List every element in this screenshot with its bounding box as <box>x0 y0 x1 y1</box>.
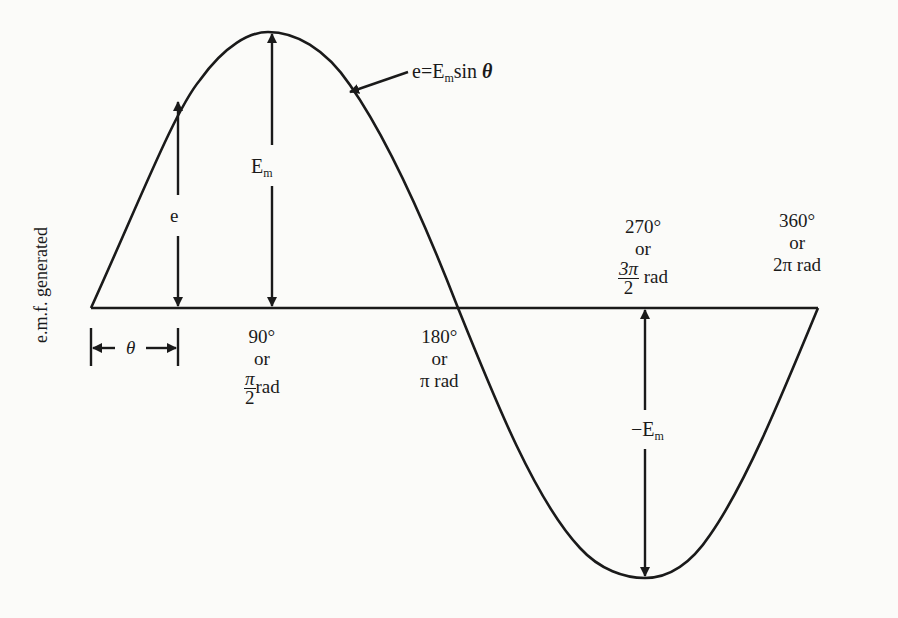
neg-em-label-main: −E <box>631 418 655 440</box>
theta-label: θ <box>126 337 135 359</box>
waveform-diagram <box>0 0 898 618</box>
curve-label-pointer <box>350 72 408 92</box>
tick-270-den: 2 <box>624 279 634 297</box>
tick-90-rad: π2rad <box>244 370 280 407</box>
tick-90-unit: rad <box>256 376 280 397</box>
tick-90-label: 90° or π2rad <box>244 326 280 407</box>
e-label: e <box>170 205 178 227</box>
em-label-sub: m <box>263 166 272 180</box>
tick-270-fraction: 3π2 <box>618 260 639 297</box>
tick-180-rad: π rad <box>420 370 459 392</box>
neg-em-label: −Em <box>631 418 664 447</box>
tick-270-unit: rad <box>639 266 668 287</box>
e-label-text: e <box>170 205 178 226</box>
y-axis-label: e.m.f. generated <box>31 227 52 343</box>
formula-sub: m <box>444 71 453 85</box>
tick-90-deg: 90° <box>244 326 280 348</box>
curve-formula-label: e=Emsin θ <box>412 60 492 89</box>
tick-90-fraction: π2 <box>244 370 256 407</box>
tick-360-label: 360° or 2π rad <box>773 210 821 276</box>
tick-360-or: or <box>773 232 821 254</box>
tick-270-rad: 3π2 rad <box>618 260 668 297</box>
theta-label-text: θ <box>126 337 135 358</box>
tick-180-label: 180° or π rad <box>420 326 459 392</box>
tick-360-deg: 360° <box>773 210 821 232</box>
tick-270-or: or <box>618 238 668 260</box>
tick-360-rad: 2π rad <box>773 254 821 276</box>
formula-prefix: e=E <box>412 60 444 82</box>
sine-curve <box>91 32 818 578</box>
tick-90-den: 2 <box>245 389 255 407</box>
formula-suffix: sin <box>454 60 482 82</box>
tick-270-label: 270° or 3π2 rad <box>618 216 668 297</box>
formula-theta: θ <box>482 60 492 82</box>
em-label-main: E <box>251 155 263 177</box>
tick-180-or: or <box>420 348 459 370</box>
em-label: Em <box>251 155 273 184</box>
neg-em-label-sub: m <box>655 429 664 443</box>
tick-270-deg: 270° <box>618 216 668 238</box>
tick-90-or: or <box>244 348 280 370</box>
tick-180-deg: 180° <box>420 326 459 348</box>
